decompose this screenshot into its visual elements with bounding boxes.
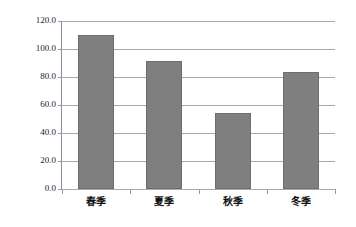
y-axis-tick-label: 20.0 [18, 156, 56, 165]
y-axis-tick-label: 0.0 [18, 184, 56, 193]
bar [78, 35, 114, 189]
y-axis-tick-label: 40.0 [18, 128, 56, 137]
y-axis-tick-label: 60.0 [18, 100, 56, 109]
x-axis-tick [335, 190, 336, 194]
bar [283, 72, 319, 189]
y-axis-tick-label: 100.0 [18, 44, 56, 53]
bars-layer [62, 21, 335, 189]
bar [146, 61, 182, 189]
bar-chart: 微生物数量/(×106cell/L) 120.0100.080.060.040.… [0, 0, 356, 227]
x-axis-category-label: 夏季 [130, 196, 198, 208]
scan-artifact [0, 0, 356, 10]
x-axis-tick [199, 190, 200, 194]
y-axis-tick-label: 120.0 [18, 16, 56, 25]
x-axis-tick [267, 190, 268, 194]
x-axis-tick [62, 190, 63, 194]
x-axis-category-label: 冬季 [267, 196, 335, 208]
bar [215, 113, 251, 189]
x-axis-tick [130, 190, 131, 194]
y-axis-tick-label: 80.0 [18, 72, 56, 81]
x-axis-category-label: 秋季 [199, 196, 267, 208]
x-axis-category-label: 春季 [62, 196, 130, 208]
